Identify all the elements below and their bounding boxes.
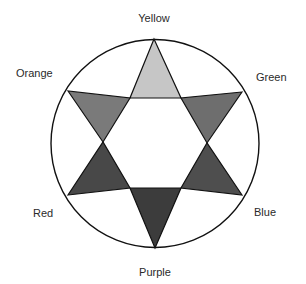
label-yellow: Yellow [138, 12, 169, 24]
label-green: Green [256, 71, 287, 83]
label-purple: Purple [139, 266, 171, 278]
color-wheel-diagram: Yellow Green Blue Purple Red Orange [0, 0, 306, 284]
label-blue: Blue [254, 206, 276, 218]
label-orange: Orange [16, 67, 53, 79]
label-red: Red [33, 207, 53, 219]
